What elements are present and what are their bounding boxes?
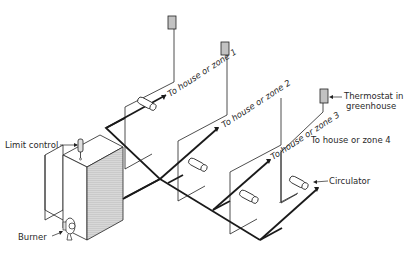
zone4-plate: [281, 150, 298, 202]
zone4-label: To house or zone 4: [310, 135, 391, 145]
thermostat-label-line2: greenhouse: [346, 101, 396, 111]
arrowhead-icon: [313, 180, 317, 184]
boiler: [45, 135, 160, 240]
heating-diagram: To house or zone 1 To house or zone 2 To…: [0, 0, 415, 253]
circulator-icon: [187, 157, 208, 173]
arrowhead-icon: [329, 95, 333, 99]
thermostat-icon: [168, 16, 176, 29]
thermostat-label-line1: Thermostat in: [343, 91, 403, 101]
main-supply-pipe: [106, 118, 282, 240]
burner-label: Burner: [18, 232, 47, 242]
thermostat-icon: [320, 89, 328, 103]
circulator-icon: [238, 189, 259, 205]
thermostat-icon: [221, 42, 229, 55]
zone-branch-3: To house or zone 3: [213, 89, 341, 234]
circulator-label: Circulator: [329, 176, 371, 186]
circulator-icon: [288, 175, 309, 191]
zone2-label: To house or zone 2: [220, 78, 293, 130]
limit-control-label: Limit control: [5, 140, 58, 150]
